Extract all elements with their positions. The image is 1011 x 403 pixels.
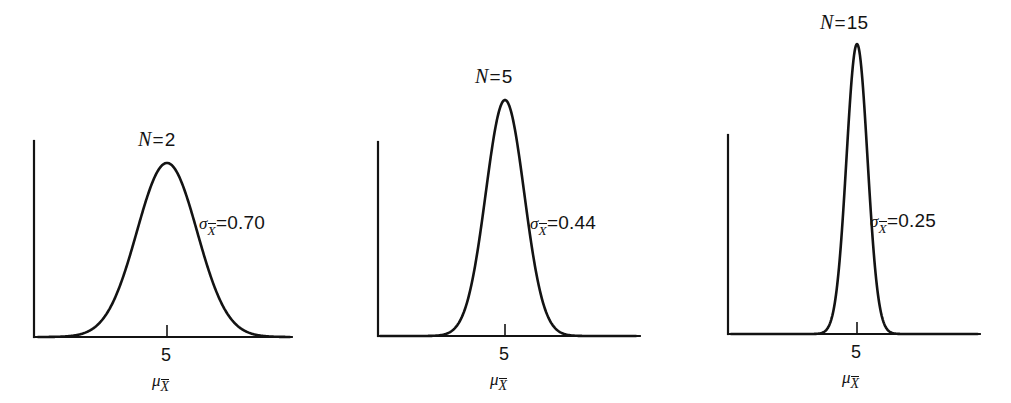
n-symbol: N [820, 11, 834, 33]
n-equals: = [834, 12, 847, 33]
sigma-symbol: σ [199, 214, 208, 233]
n-symbol: N [138, 128, 152, 150]
mu-subscript-xbar: X [161, 379, 170, 395]
distribution-panel-n15: N=15 σX=0.25 5 μX [670, 0, 1011, 403]
n-label-n2: N=2 [138, 129, 176, 149]
mu-symbol: μ [152, 371, 161, 390]
n-equals: = [489, 66, 502, 87]
mu-subscript-xbar: X [499, 378, 508, 394]
distribution-panel-n5: N=5 σX=0.44 5 μX [340, 0, 670, 403]
sigma-subscript-xbar: X [879, 221, 887, 236]
sigma-label-n5: σX=0.44 [530, 213, 596, 232]
x-tick-label-n5: 5 [499, 345, 509, 363]
panel-n2-plot [0, 0, 340, 403]
sigma-symbol: σ [530, 214, 539, 233]
sigma-value: 0.25 [898, 210, 936, 231]
sigma-label-n15: σX=0.25 [870, 211, 936, 230]
sigma-equals: = [887, 210, 898, 231]
axes-n15 [728, 135, 980, 334]
mu-symbol: μ [490, 370, 499, 389]
n-equals: = [152, 129, 165, 150]
n-value: 5 [502, 66, 513, 87]
normal-curve-n15 [731, 44, 978, 334]
n-label-n15: N=15 [820, 12, 868, 32]
mu-symbol: μ [842, 368, 851, 387]
n-symbol: N [475, 65, 489, 87]
distribution-panel-n2: N=2 σX=0.70 5 μX [0, 0, 340, 403]
normal-curve-n2 [38, 163, 290, 337]
mu-subscript-xbar: X [851, 376, 860, 392]
normal-curve-n5 [380, 100, 636, 336]
x-tick-label-n15: 5 [851, 343, 861, 361]
n-value: 15 [847, 12, 869, 33]
sigma-subscript-xbar: X [208, 223, 216, 238]
panel-n15-plot [670, 0, 1011, 403]
x-tick-label-n2: 5 [161, 346, 171, 364]
n-value: 2 [165, 129, 176, 150]
mu-label-n15: μX [842, 369, 859, 387]
sigma-equals: = [547, 212, 558, 233]
sigma-symbol: σ [870, 212, 879, 231]
n-label-n5: N=5 [475, 66, 513, 86]
sigma-value: 0.44 [558, 212, 596, 233]
panel-n5-plot [340, 0, 670, 403]
sigma-subscript-xbar: X [539, 223, 547, 238]
sampling-distributions-figure: N=2 σX=0.70 5 μX N=5 σX=0.44 5 μX [0, 0, 1011, 403]
axes-n2 [34, 141, 292, 337]
sigma-equals: = [216, 212, 227, 233]
axes-n5 [378, 142, 640, 336]
sigma-value: 0.70 [227, 212, 265, 233]
mu-label-n5: μX [490, 371, 507, 389]
sigma-label-n2: σX=0.70 [199, 213, 265, 232]
mu-label-n2: μX [152, 372, 169, 390]
